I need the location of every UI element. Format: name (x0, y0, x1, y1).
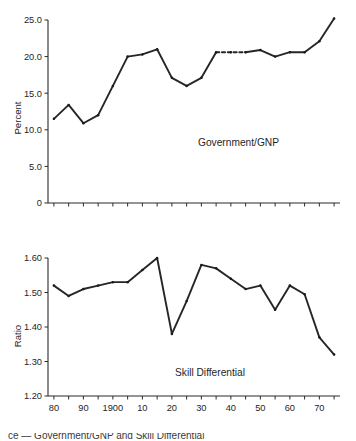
data-point-marker (289, 284, 292, 287)
y-axis-tick-labels: 1.201.301.401.501.60 (24, 253, 42, 401)
y-tick-label: 1.20 (24, 391, 42, 401)
data-point-marker (244, 51, 247, 54)
data-point-marker (82, 122, 85, 125)
series-line-skill-differential (54, 258, 334, 355)
chart-svg-skill-differential: 1.201.301.401.501.60 8090190010203040506… (0, 228, 356, 441)
data-point-marker (200, 264, 203, 267)
x-tick-label: 10 (137, 403, 147, 413)
data-point-marker (112, 281, 115, 284)
data-point-marker (156, 48, 159, 51)
data-point-marker (53, 284, 56, 287)
y-tick-label: 5.0 (29, 162, 42, 172)
series-data-markers (53, 17, 336, 124)
data-point-marker (200, 77, 203, 80)
y-tick-label: 20.0 (24, 52, 42, 62)
caption-text: ce — Government/GNP and Skill Differenti… (8, 433, 204, 441)
data-point-marker (97, 284, 100, 287)
y-tick-label: 1.30 (24, 357, 42, 367)
series-data-markers (53, 257, 336, 356)
chart-svg-government-gnp: 05.010.015.020.025.0 Percent Government/… (0, 0, 356, 228)
series-line-segment-late (246, 19, 334, 57)
data-point-marker (230, 51, 233, 54)
data-point-marker (215, 51, 218, 54)
x-tick-label: 40 (226, 403, 236, 413)
y-tick-label: 0 (37, 198, 42, 208)
data-point-marker (303, 51, 306, 54)
data-point-marker (82, 288, 85, 291)
x-tick-label: 1900 (103, 403, 124, 413)
data-point-marker (126, 281, 129, 284)
data-point-marker (215, 267, 218, 270)
data-point-marker (156, 257, 159, 260)
data-point-marker (318, 40, 321, 43)
y-tick-label: 10.0 (24, 125, 42, 135)
data-point-marker (259, 284, 262, 287)
x-tick-label: 70 (314, 403, 324, 413)
y-axis-title: Ratio (12, 325, 23, 347)
data-point-marker (126, 55, 129, 58)
data-point-marker (185, 300, 188, 303)
chart-panel-government-gnp: 05.010.015.020.025.0 Percent Government/… (0, 0, 356, 228)
data-point-marker (141, 269, 144, 272)
data-point-marker (97, 114, 100, 117)
data-point-marker (244, 288, 247, 291)
data-point-marker (171, 77, 174, 80)
data-point-marker (274, 309, 277, 312)
data-point-marker (289, 51, 292, 54)
data-point-marker (141, 53, 144, 56)
x-tick-label: 30 (196, 403, 206, 413)
series-line-segment-early (54, 49, 216, 123)
data-point-marker (303, 293, 306, 296)
y-tick-label: 1.60 (24, 253, 42, 263)
caption-strip: ce — Government/GNP and Skill Differenti… (0, 433, 356, 441)
x-tick-label: 90 (78, 403, 88, 413)
data-point-marker (112, 85, 115, 88)
y-tick-label: 1.40 (24, 322, 42, 332)
y-tick-label: 15.0 (24, 89, 42, 99)
y-tick-label: 1.50 (24, 288, 42, 298)
figure-two-panel-line-charts: 05.010.015.020.025.0 Percent Government/… (0, 0, 356, 441)
x-tick-label: 20 (167, 403, 177, 413)
y-axis-tick-labels: 05.010.015.020.025.0 (24, 15, 42, 208)
data-point-marker (318, 336, 321, 339)
data-point-marker (274, 55, 277, 58)
series-annotation-government-gnp: Government/GNP (198, 137, 279, 148)
data-point-marker (230, 277, 233, 280)
data-point-marker (185, 85, 188, 88)
data-point-marker (53, 118, 56, 121)
chart-panel-skill-differential: 1.201.301.401.501.60 8090190010203040506… (0, 228, 356, 441)
x-axis-tick-labels: 8090190010203040506070 (49, 403, 325, 413)
data-point-marker (259, 49, 262, 52)
y-axis-title: Percent (12, 101, 23, 134)
data-point-marker (333, 353, 336, 356)
data-point-marker (171, 333, 174, 336)
x-tick-label: 50 (255, 403, 265, 413)
series-annotation-skill-differential: Skill Differential (175, 367, 245, 378)
data-point-marker (67, 104, 70, 107)
y-tick-label: 25.0 (24, 15, 42, 25)
data-point-marker (67, 295, 70, 298)
x-tick-label: 80 (49, 403, 59, 413)
data-point-marker (333, 17, 336, 20)
x-tick-label: 60 (285, 403, 295, 413)
